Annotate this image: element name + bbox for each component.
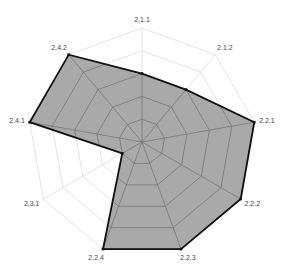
axis-label-2-1-1: 2.1.1 bbox=[134, 16, 150, 23]
axis-label-2-1-2: 2.1.2 bbox=[217, 44, 233, 51]
axis-label-2-2-1: 2.2.1 bbox=[259, 117, 275, 124]
data-point bbox=[180, 248, 183, 251]
radar-chart: 2.1.12.1.22.2.12.2.22.2.32.2.42.3.12.4.1… bbox=[0, 0, 283, 276]
data-point bbox=[141, 72, 144, 75]
data-point bbox=[253, 121, 256, 124]
axis-label-2-2-4: 2.2.4 bbox=[88, 254, 104, 261]
axis-label-2-2-2: 2.2.2 bbox=[245, 200, 261, 207]
axis-label-2-4-2: 2.4.2 bbox=[51, 44, 67, 51]
data-point bbox=[121, 152, 124, 155]
axis-label-2-4-1: 2.4.1 bbox=[9, 117, 25, 124]
data-point bbox=[239, 198, 242, 201]
radar-chart-svg: 2.1.12.1.22.2.12.2.22.2.32.2.42.3.12.4.1… bbox=[0, 0, 283, 276]
data-point bbox=[102, 248, 105, 251]
axis-label-2-2-3: 2.2.3 bbox=[180, 254, 196, 261]
data-point bbox=[67, 53, 70, 56]
data-point bbox=[185, 88, 188, 91]
data-point bbox=[28, 121, 31, 124]
axis-label-2-3-1: 2.3.1 bbox=[24, 200, 40, 207]
